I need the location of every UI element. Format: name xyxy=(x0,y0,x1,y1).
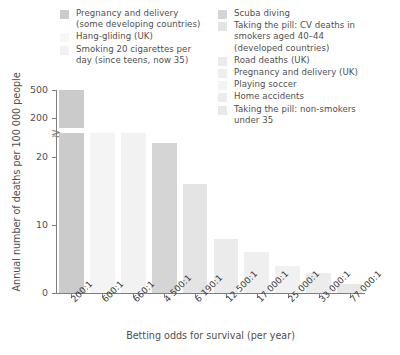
y-tick-mark xyxy=(52,90,56,91)
bar[interactable] xyxy=(121,133,146,293)
plot-area: ≳ 50020020100 Annual number of deaths pe… xyxy=(0,0,400,355)
x-axis-title: Betting odds for survival (per year) xyxy=(56,330,365,341)
y-axis-title: Annual number of deaths per 100 000 peop… xyxy=(11,92,22,292)
bar[interactable] xyxy=(59,133,84,293)
y-tick-mark xyxy=(52,225,56,226)
y-tick-mark xyxy=(52,293,56,294)
bar-group xyxy=(56,90,365,293)
y-tick-mark xyxy=(52,118,56,119)
bar-upper-segment[interactable] xyxy=(59,90,84,128)
bar[interactable] xyxy=(90,133,115,293)
chart-figure: Pregnancy and delivery(some developing c… xyxy=(0,0,400,355)
bar[interactable] xyxy=(152,143,177,293)
y-tick-mark xyxy=(52,157,56,158)
